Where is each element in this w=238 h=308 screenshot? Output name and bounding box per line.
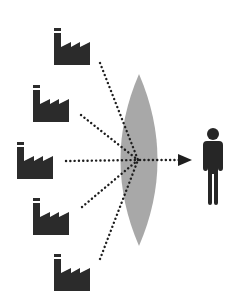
line-factory-3 xyxy=(66,160,138,161)
factory-icon xyxy=(54,28,90,65)
factory-icon xyxy=(33,85,69,122)
factory-icon xyxy=(17,142,53,179)
person-icon xyxy=(203,128,223,205)
diagram-canvas xyxy=(0,0,238,308)
arrow-right-icon xyxy=(178,154,192,166)
diagram-svg xyxy=(0,0,238,308)
factory-icon xyxy=(54,254,90,291)
factory-icon xyxy=(33,198,69,235)
